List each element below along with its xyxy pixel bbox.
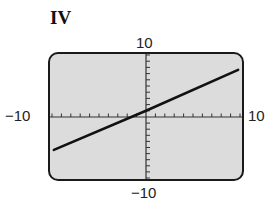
x-max-label: 10 — [248, 107, 265, 124]
y-max-label: 10 — [136, 34, 153, 51]
y-min-label: −10 — [131, 184, 156, 201]
x-min-label: −10 — [5, 107, 30, 124]
graphing-calculator-screen — [0, 0, 276, 209]
